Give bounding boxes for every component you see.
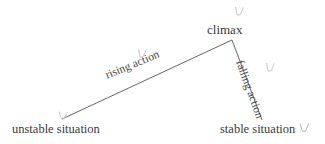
stable-situation-label: stable situation <box>220 123 295 136</box>
cursor-arc-icon <box>137 48 148 60</box>
plot-diagram: climax rising action falling action unst… <box>0 0 325 144</box>
cursor-arc-icon <box>265 62 276 74</box>
unstable-situation-label: unstable situation <box>12 123 100 136</box>
cursor-arc-icon <box>234 6 245 18</box>
cursor-arc-icon <box>299 122 310 134</box>
cursor-arc-icon <box>58 110 69 122</box>
climax-label: climax <box>207 23 242 36</box>
